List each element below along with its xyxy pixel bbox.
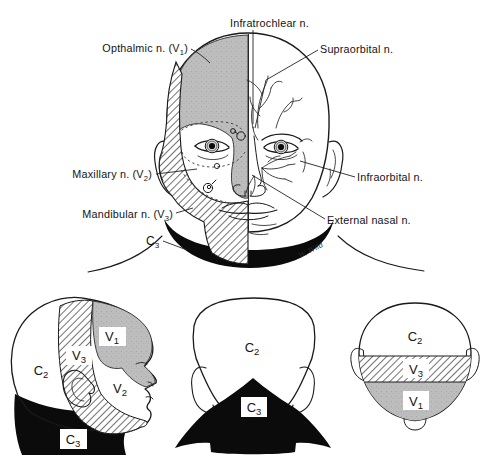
- left-eye: [195, 139, 229, 159]
- posterior-view-figure: C2 C3: [175, 298, 331, 454]
- label-external-nasal: External nasal n.: [327, 214, 411, 226]
- supraorbital-nerve-branches: [247, 76, 302, 128]
- cheek-spiral-detail: [203, 180, 216, 193]
- label-infraorbital: Infraorbital n.: [357, 171, 423, 183]
- label-supraorbital: Supraorbital n.: [320, 43, 393, 55]
- vertex-view-figure: C2 V3 V1: [351, 303, 479, 430]
- lateral-label-v2: V2: [113, 381, 127, 398]
- lateral-view-figure: V1 V3 C2 V2 C3: [11, 297, 156, 455]
- lateral-label-c2: C2: [34, 363, 49, 380]
- vertex-label-c2: C2: [408, 329, 423, 346]
- label-ophthalmic: Opthalmic n. (V1): [102, 42, 188, 57]
- dermatome-figure: Infratrochlear n. Opthalmic n. (V1) Supr…: [0, 0, 494, 474]
- label-infratrochlear: Infratrochlear n.: [230, 17, 309, 29]
- figure-canvas: Infratrochlear n. Opthalmic n. (V1) Supr…: [0, 0, 494, 474]
- right-ear: [323, 141, 343, 197]
- c3-collar: [164, 219, 334, 268]
- posterior-label-c2: C2: [245, 340, 260, 357]
- label-mandibular: Mandibular n. (V3): [82, 208, 173, 223]
- label-maxillary: Maxillary n. (V2): [72, 168, 152, 183]
- label-c3-main: C3: [146, 234, 159, 250]
- front-face-figure: Infratrochlear n. Opthalmic n. (V1) Supr…: [72, 17, 424, 272]
- cheek-dot-detail: [214, 163, 219, 168]
- v1-region: [177, 35, 248, 198]
